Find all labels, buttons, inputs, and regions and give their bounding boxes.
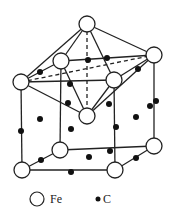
carbon-atom [67, 81, 73, 87]
carbon-atom [153, 98, 159, 104]
iron-atom-lower-left [14, 162, 30, 178]
carbon-atom [37, 69, 43, 75]
iron-atom-upper-back [53, 53, 69, 69]
carbon-atom [18, 128, 24, 134]
carbon-atom [68, 169, 74, 175]
carbon-atom [107, 148, 113, 154]
carbon-atom [104, 55, 110, 61]
iron-atom-upper-left [13, 74, 29, 90]
carbon-atom [65, 100, 71, 106]
carbon-atom [113, 124, 119, 130]
iron-atom-apex-top [79, 16, 95, 32]
iron-atom-lower-right [146, 138, 162, 154]
carbon-atom [133, 114, 139, 120]
carbon-atom [106, 101, 112, 107]
crystal-structure-diagram: Fe C [0, 0, 177, 217]
c-legend-label: C [103, 192, 111, 206]
iron-atom-apex-bottom [79, 108, 95, 124]
carbon-atom [133, 155, 139, 161]
iron-atom-lower-front [107, 162, 123, 178]
iron-atom-upper-right [146, 47, 162, 63]
carbon-atom [37, 116, 43, 122]
fe-legend-label: Fe [50, 192, 62, 206]
carbon-atom [135, 66, 141, 72]
carbon-atom [85, 57, 91, 63]
carbon-atom [86, 154, 92, 160]
c-legend-icon [96, 197, 101, 202]
carbon-atom [38, 157, 44, 163]
fe-legend-icon [30, 192, 44, 206]
iron-atom-upper-front [106, 72, 122, 88]
iron-atom-lower-back [52, 142, 68, 158]
carbon-atom [147, 103, 153, 109]
carbon-atom [68, 126, 74, 132]
